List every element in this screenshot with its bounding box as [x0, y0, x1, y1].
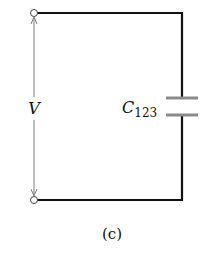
circuit-diagram: V C123 (c)	[0, 0, 207, 253]
figure-caption: (c)	[102, 225, 122, 243]
capacitor-label: C123	[122, 98, 157, 120]
terminal-top-icon	[31, 10, 38, 17]
voltage-label: V	[28, 99, 41, 118]
terminal-bottom-icon	[31, 197, 38, 204]
bottom-wire	[37, 115, 182, 200]
circuit-wires	[37, 13, 182, 200]
top-wire	[37, 13, 182, 97]
capacitor-icon	[166, 98, 198, 115]
capacitor-label-sub: 123	[134, 106, 157, 120]
capacitor-label-main: C	[122, 98, 134, 117]
